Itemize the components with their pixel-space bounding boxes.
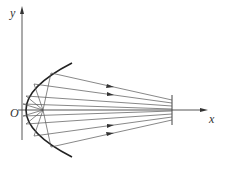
origin-label: O	[10, 106, 19, 120]
x-axis-label: x	[208, 112, 215, 126]
x-axis-arrow-icon	[200, 108, 208, 112]
parabola-diagram: y x O	[0, 0, 228, 173]
y-axis-arrow-icon	[20, 6, 24, 14]
y-axis-label: y	[9, 6, 16, 20]
